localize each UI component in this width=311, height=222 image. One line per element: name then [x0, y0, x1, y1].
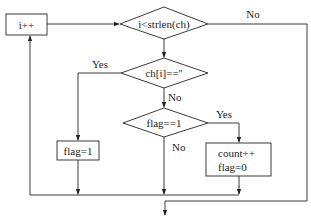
loop-no-label: No: [246, 8, 260, 20]
count-block-node: count++ flag=0: [206, 143, 271, 176]
space-check-text: ch[i]=='': [145, 67, 182, 79]
count-block-line-2: flag=0: [218, 161, 247, 173]
flowchart-canvas: i++ i<strlen(ch) No ch[i]=='' Yes No fla…: [0, 0, 311, 222]
edge-space-yes: [78, 73, 121, 140]
set-flag-text: flag=1: [64, 145, 93, 157]
count-block-line-1: count++: [218, 147, 255, 159]
space-no-label: No: [168, 91, 182, 103]
flag-check-node: flag==1: [123, 108, 208, 137]
space-yes-label: Yes: [92, 58, 108, 70]
space-check-node: ch[i]=='': [121, 58, 208, 88]
edge-flag-yes: [208, 123, 239, 142]
loop-condition-node: i<strlen(ch): [120, 7, 208, 39]
loop-condition-text: i<strlen(ch): [138, 18, 190, 31]
set-flag-node: flag=1: [57, 141, 99, 160]
flag-check-text: flag==1: [146, 117, 181, 129]
increment-text: i++: [19, 19, 34, 31]
increment-node: i++: [6, 14, 47, 35]
flag-yes-label: Yes: [216, 108, 232, 120]
flag-no-label: No: [172, 141, 186, 153]
